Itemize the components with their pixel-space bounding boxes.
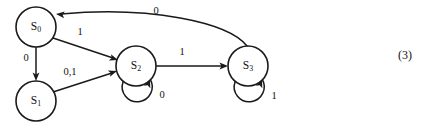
edge-path-e-s0-s2 <box>53 38 113 58</box>
edge-label-e-s2-s2-loop: 0 <box>159 89 164 100</box>
edge-label-e-s2-s3: 1 <box>179 46 184 57</box>
edge-label-e-s3-s0: 0 <box>153 5 158 16</box>
state-diagram-figure: S0S1S2S3 010,11001 (3) <box>0 0 434 125</box>
edge-s2-to-s3[interactable] <box>156 63 228 70</box>
edge-path-e-s1-s2 <box>53 73 112 92</box>
state-subscript-s2: 2 <box>137 64 141 73</box>
edge-path-e-s3-s0 <box>61 12 247 46</box>
edge-label-e-s3-s3-loop: 1 <box>271 90 276 101</box>
figure-number-caption: (3) <box>398 48 412 63</box>
edge-label-e-s0-s1: 0 <box>23 52 28 63</box>
edge-s3-to-s0[interactable] <box>56 11 247 46</box>
state-subscript-s0: 0 <box>37 25 41 34</box>
state-diagram-canvas: S0S1S2S3 010,11001 <box>0 0 434 125</box>
state-subscript-s3: 3 <box>249 64 253 73</box>
state-node-s2[interactable]: S2 <box>116 46 156 86</box>
state-node-s3[interactable]: S3 <box>228 46 268 86</box>
nodes-layer: S0S1S2S3 <box>16 7 268 121</box>
edge-s0-to-s1[interactable] <box>33 47 40 81</box>
state-node-s1[interactable]: S1 <box>16 81 56 121</box>
edge-label-e-s0-s2: 1 <box>77 26 82 37</box>
edge-label-e-s1-s2: 0,1 <box>63 66 76 77</box>
state-subscript-s1: 1 <box>37 99 41 108</box>
edge-s0-to-s2[interactable] <box>53 38 119 63</box>
state-node-s0[interactable]: S0 <box>16 7 56 47</box>
